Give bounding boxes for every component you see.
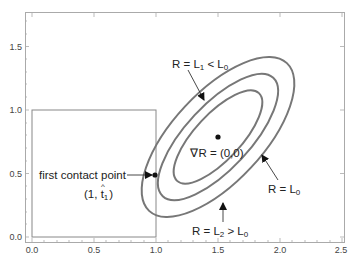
x-tick-label: 0.5: [88, 245, 101, 255]
y-tick-label: 1.5: [9, 42, 22, 52]
x-tick-label: 2.5: [335, 245, 348, 255]
contour-plot: 0.0 0.5 1.0 1.5 2.0 2.5 0.0 0.5 1.0 1.5 …: [0, 0, 354, 265]
arrow-l0: [262, 155, 278, 180]
label-l1-less-l0: R = L1 < L0: [172, 58, 229, 72]
hat-accent: ^: [101, 182, 105, 191]
minimum-point: [215, 134, 220, 139]
y-tick-label: 0.5: [9, 169, 22, 179]
label-l2-greater-l0: R = L2 > L0: [192, 225, 249, 239]
contact-point: [152, 172, 157, 177]
label-l0: R = L0: [268, 183, 301, 197]
x-tick-label: 2.0: [274, 245, 287, 255]
x-tick-label: 0.0: [26, 245, 39, 255]
x-tick-label: 1.5: [212, 245, 225, 255]
label-contact-coord: (1, t1): [84, 188, 113, 202]
x-axis-ticks: [32, 13, 342, 242]
y-tick-label: 1.0: [9, 105, 22, 115]
y-tick-label: 0.0: [9, 232, 22, 242]
label-gradient-zero: ∇R = (0,0): [189, 147, 243, 159]
x-tick-label: 1.0: [150, 245, 163, 255]
y-axis-ticks: [25, 21, 344, 237]
label-first-contact: first contact point: [39, 169, 127, 181]
